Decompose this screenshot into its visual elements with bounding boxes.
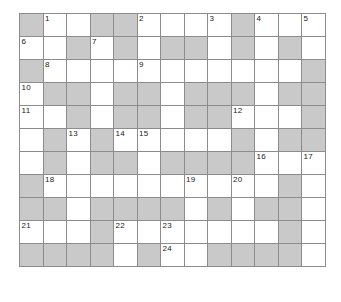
crossword-cell-open[interactable]: 16 — [255, 152, 279, 175]
crossword-cell-open[interactable] — [43, 37, 67, 60]
clue-number: 13 — [69, 129, 79, 138]
crossword-cell-open[interactable] — [278, 152, 302, 175]
crossword-cell-open[interactable] — [67, 60, 91, 83]
crossword-cell-open[interactable]: 20 — [231, 175, 255, 198]
crossword-cell-blocked — [114, 37, 138, 60]
crossword-cell-open[interactable]: 7 — [90, 37, 114, 60]
crossword-cell-open[interactable] — [161, 14, 185, 37]
crossword-cell-open[interactable] — [208, 129, 232, 152]
crossword-cell-open[interactable] — [255, 175, 279, 198]
crossword-cell-open[interactable] — [114, 244, 138, 267]
crossword-cell-open[interactable] — [161, 129, 185, 152]
crossword-cell-blocked — [137, 198, 161, 221]
crossword-cell-blocked — [43, 198, 67, 221]
crossword-cell-open[interactable] — [208, 60, 232, 83]
crossword-cell-open[interactable] — [231, 60, 255, 83]
crossword-cell-open[interactable]: 9 — [137, 60, 161, 83]
crossword-cell-open[interactable]: 15 — [137, 129, 161, 152]
crossword-cell-open[interactable]: 6 — [20, 37, 44, 60]
crossword-cell-open[interactable] — [67, 221, 91, 244]
crossword-cell-open[interactable] — [43, 221, 67, 244]
crossword-cell-blocked — [90, 198, 114, 221]
crossword-cell-open[interactable] — [231, 198, 255, 221]
crossword-cell-open[interactable] — [184, 14, 208, 37]
crossword-cell-open[interactable]: 21 — [20, 221, 44, 244]
clue-number: 3 — [210, 14, 215, 23]
crossword-cell-open[interactable] — [114, 175, 138, 198]
crossword-cell-open[interactable] — [67, 152, 91, 175]
crossword-cell-blocked — [231, 244, 255, 267]
crossword-cell-blocked — [114, 106, 138, 129]
crossword-cell-blocked — [302, 60, 326, 83]
crossword-cell-open[interactable] — [161, 175, 185, 198]
crossword-cell-open[interactable]: 4 — [255, 14, 279, 37]
crossword-cell-blocked — [90, 221, 114, 244]
crossword-cell-open[interactable]: 13 — [67, 129, 91, 152]
crossword-cell-open[interactable] — [90, 60, 114, 83]
crossword-cell-open[interactable] — [161, 106, 185, 129]
crossword-cell-blocked — [255, 198, 279, 221]
crossword-cell-open[interactable] — [255, 60, 279, 83]
crossword-cell-blocked — [43, 152, 67, 175]
crossword-cell-open[interactable] — [137, 152, 161, 175]
crossword-cell-open[interactable] — [184, 244, 208, 267]
crossword-cell-open[interactable] — [208, 37, 232, 60]
crossword-cell-open[interactable] — [20, 152, 44, 175]
crossword-cell-open[interactable] — [255, 37, 279, 60]
crossword-cell-open[interactable]: 11 — [20, 106, 44, 129]
crossword-cell-blocked — [278, 175, 302, 198]
crossword-cell-open[interactable] — [208, 221, 232, 244]
crossword-cell-open[interactable]: 8 — [43, 60, 67, 83]
crossword-cell-open[interactable]: 18 — [43, 175, 67, 198]
crossword-cell-open[interactable] — [255, 221, 279, 244]
crossword-cell-blocked — [208, 106, 232, 129]
crossword-grid[interactable]: 123456789101112131415161718192021222324 — [19, 13, 326, 267]
crossword-cell-open[interactable] — [278, 60, 302, 83]
crossword-cell-open[interactable] — [302, 37, 326, 60]
crossword-cell-open[interactable] — [278, 14, 302, 37]
crossword-cell-open[interactable]: 5 — [302, 14, 326, 37]
crossword-cell-open[interactable] — [161, 83, 185, 106]
crossword-cell-blocked — [20, 244, 44, 267]
crossword-cell-open[interactable]: 24 — [161, 244, 185, 267]
crossword-cell-open[interactable] — [184, 60, 208, 83]
crossword-cell-open[interactable] — [302, 175, 326, 198]
crossword-cell-open[interactable] — [20, 129, 44, 152]
crossword-cell-open[interactable] — [137, 37, 161, 60]
crossword-cell-open[interactable] — [43, 106, 67, 129]
crossword-cell-open[interactable] — [302, 221, 326, 244]
crossword-cell-open[interactable] — [184, 198, 208, 221]
crossword-cell-open[interactable]: 3 — [208, 14, 232, 37]
crossword-cell-open[interactable] — [137, 175, 161, 198]
crossword-cell-open[interactable] — [255, 129, 279, 152]
crossword-cell-open[interactable] — [184, 129, 208, 152]
crossword-cell-open[interactable] — [114, 60, 138, 83]
crossword-cell-open[interactable]: 10 — [20, 83, 44, 106]
crossword-cell-open[interactable]: 14 — [114, 129, 138, 152]
crossword-cell-open[interactable] — [67, 198, 91, 221]
crossword-cell-open[interactable] — [67, 14, 91, 37]
crossword-cell-open[interactable]: 22 — [114, 221, 138, 244]
crossword-cell-open[interactable]: 19 — [184, 175, 208, 198]
crossword-cell-open[interactable] — [302, 198, 326, 221]
crossword-cell-open[interactable] — [208, 175, 232, 198]
crossword-cell-open[interactable]: 12 — [231, 106, 255, 129]
crossword-cell-blocked — [278, 129, 302, 152]
crossword-cell-open[interactable] — [184, 221, 208, 244]
crossword-cell-blocked — [90, 14, 114, 37]
crossword-cell-open[interactable] — [302, 244, 326, 267]
crossword-cell-open[interactable]: 23 — [161, 221, 185, 244]
crossword-cell-open[interactable] — [137, 221, 161, 244]
crossword-cell-open[interactable] — [231, 221, 255, 244]
crossword-cell-open[interactable]: 2 — [137, 14, 161, 37]
crossword-cell-open[interactable] — [90, 175, 114, 198]
crossword-cell-open[interactable] — [161, 60, 185, 83]
crossword-cell-open[interactable]: 1 — [43, 14, 67, 37]
crossword-cell-open[interactable] — [67, 175, 91, 198]
crossword-cell-open[interactable] — [90, 106, 114, 129]
crossword-cell-open[interactable] — [90, 83, 114, 106]
crossword-cell-open[interactable] — [278, 106, 302, 129]
crossword-cell-open[interactable]: 17 — [302, 152, 326, 175]
crossword-cell-open[interactable] — [255, 83, 279, 106]
crossword-cell-open[interactable] — [255, 106, 279, 129]
